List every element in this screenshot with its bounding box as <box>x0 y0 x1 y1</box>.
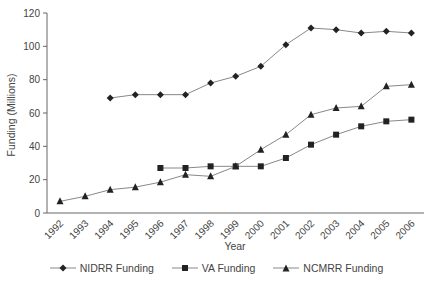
x-tick-label: 2006 <box>393 217 417 241</box>
triangle-marker-icon <box>273 264 299 272</box>
legend-item-va: VA Funding <box>172 262 256 274</box>
x-tick-label: 2004 <box>343 217 367 241</box>
x-tick-label: 1997 <box>167 217 191 241</box>
data-point-marker <box>408 30 415 37</box>
y-tick-label: 60 <box>29 108 41 119</box>
data-point-marker <box>257 146 264 153</box>
data-point-marker <box>333 132 339 138</box>
data-point-marker <box>258 163 264 169</box>
data-point-marker <box>282 131 289 138</box>
data-point-marker <box>208 163 214 169</box>
x-tick-label: 2003 <box>318 217 342 241</box>
x-tick-label: 2001 <box>268 217 292 241</box>
series-va-funding <box>157 117 414 171</box>
x-tick-label: 1998 <box>193 217 217 241</box>
data-point-marker <box>157 91 164 98</box>
data-point-marker <box>408 117 414 123</box>
data-point-marker <box>383 118 389 124</box>
data-point-marker <box>333 26 340 33</box>
data-point-marker <box>308 142 314 148</box>
y-tick-label: 40 <box>29 141 41 152</box>
data-point-marker <box>207 80 214 87</box>
x-axis-title: Year <box>224 240 246 252</box>
legend-item-ncmrr: NCMRR Funding <box>273 262 383 274</box>
data-point-marker <box>107 95 114 102</box>
data-point-marker <box>383 28 390 35</box>
x-tick-label: 1995 <box>117 217 141 241</box>
data-point-marker <box>232 73 239 80</box>
x-tick-label: 1993 <box>67 217 91 241</box>
legend-item-nidrr: NIDRR Funding <box>50 262 154 274</box>
data-point-marker <box>183 165 189 171</box>
legend-label: VA Funding <box>202 262 256 274</box>
legend: NIDRR Funding VA Funding NCMRR Funding <box>0 262 433 274</box>
square-marker-icon <box>172 264 198 272</box>
series-group <box>57 25 415 205</box>
x-tick-label: 2000 <box>243 217 267 241</box>
legend-label: NIDRR Funding <box>80 262 154 274</box>
y-axis: 020406080100120 <box>23 8 47 219</box>
y-tick-label: 20 <box>29 174 41 185</box>
y-axis-title: Funding (Millions) <box>5 74 17 157</box>
data-point-marker <box>358 30 365 37</box>
series-nidrr-funding <box>107 25 415 102</box>
data-point-marker <box>308 25 315 32</box>
x-tick-label: 2005 <box>368 217 392 241</box>
data-point-marker <box>358 102 365 109</box>
x-tick-label: 2002 <box>293 217 317 241</box>
data-point-marker <box>283 155 289 161</box>
x-tick-label: 1999 <box>218 217 242 241</box>
y-tick-label: 100 <box>23 41 40 52</box>
data-point-marker <box>182 91 189 98</box>
x-tick-label: 1996 <box>142 217 166 241</box>
data-point-marker <box>408 81 415 88</box>
data-point-marker <box>132 91 139 98</box>
y-tick-label: 80 <box>29 74 41 85</box>
data-point-marker <box>182 171 189 178</box>
x-tick-label: 1992 <box>42 217 66 241</box>
x-axis: 1992199319941995199619971998199920002001… <box>42 213 424 241</box>
data-point-marker <box>157 165 163 171</box>
legend-label: NCMRR Funding <box>303 262 383 274</box>
diamond-marker-icon <box>50 264 76 272</box>
y-tick-label: 120 <box>23 8 40 19</box>
y-tick-label: 0 <box>34 208 40 219</box>
x-tick-label: 1994 <box>92 217 116 241</box>
line-chart: 020406080100120 199219931994199519961997… <box>0 0 433 260</box>
data-point-marker <box>358 123 364 129</box>
